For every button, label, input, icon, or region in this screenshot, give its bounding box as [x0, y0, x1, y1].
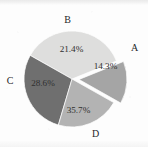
slice-a-category-label: A — [131, 42, 139, 53]
pie-chart-figure: 14.3% 21.4% 28.6% 35.7% A B C D — [0, 0, 148, 147]
slice-d-category-label: D — [92, 128, 99, 139]
pie-chart-svg: 14.3% 21.4% 28.6% 35.7% A B C D — [0, 0, 148, 147]
slice-c-percent-label: 28.6% — [31, 78, 55, 88]
slice-c-category-label: C — [7, 75, 14, 86]
slice-b-percent-label: 21.4% — [60, 44, 84, 54]
slice-b-category-label: B — [64, 14, 71, 25]
slice-d-percent-label: 35.7% — [67, 105, 91, 115]
slice-a-percent-label: 14.3% — [94, 61, 118, 71]
